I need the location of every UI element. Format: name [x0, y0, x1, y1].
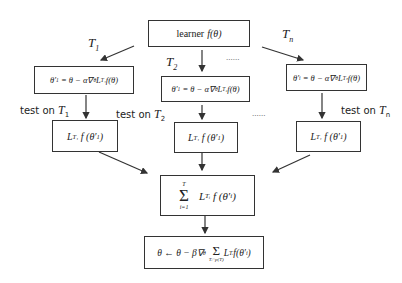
aggregate-box: T Σ i=1 LTᵢ f (θ′i) [160, 175, 255, 216]
test-label-tn: test on Tn [341, 103, 390, 119]
task-label-t2: T2 [166, 54, 177, 72]
test-loss-box-t2: LT₁ f (θ′1) [174, 122, 238, 153]
update-box-t2: θ′1 = θ − α∇θLT₂f(θ) [161, 76, 250, 102]
learner-box: learner f(θ) [148, 20, 250, 47]
ellipsis-bottom: ...... [252, 108, 266, 118]
meta-sum-symbol: Σ Tᵢ~p(T) [209, 244, 224, 262]
test-label-t1: test on T1 [20, 103, 69, 119]
task-label-tn: Tn [282, 26, 293, 44]
maml-diagram: learner f(θ) T1 T2 Tn ...... ...... θ′1 … [0, 0, 402, 283]
ellipsis-top: ...... [226, 52, 240, 62]
test-loss-box-t1: LT₁ f (θ′1) [52, 120, 118, 152]
learner-func: f(θ) [207, 28, 221, 39]
update-box-t1: θ′1 = θ − α∇θLT₁f(θ) [34, 66, 134, 94]
arrow-learner-tn [262, 47, 303, 60]
task-label-t1: T1 [88, 35, 99, 53]
sum-symbol: T Σ i=1 [179, 181, 189, 210]
arrow-testn-sum [273, 155, 310, 172]
test-label-t2: test on T2 [116, 107, 165, 123]
test-loss-box-tn: LT₁ f (θ′1) [296, 121, 361, 152]
arrow-test1-sum [99, 152, 147, 173]
meta-update-box: θ ← θ − β∇θ Σ Tᵢ~p(T) LTᵢf(θ′i) [144, 236, 264, 269]
update-box-tn: θ′i = θ − α∇θLTₙf(θ) [286, 64, 367, 91]
learner-label: learner [176, 28, 204, 39]
arrow-learner-t1 [101, 46, 134, 60]
